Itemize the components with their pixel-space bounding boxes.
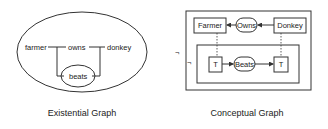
conceptual-graph: ¬ Farmer Owns Donkey ¬ T Beats T [175, 11, 311, 90]
eg-beats-label: beats [69, 72, 88, 81]
existential-graph-caption: Existential Graph [48, 108, 117, 118]
diagram-canvas: farmer owns donkey beats Existential Gra… [0, 0, 328, 129]
eg-owns-label: owns [68, 43, 86, 52]
eg-farmer-label: farmer [25, 43, 47, 52]
existential-graph: farmer owns donkey beats [17, 12, 147, 92]
inner-negation-mark: ¬ [187, 58, 192, 67]
cg-owns-label: Owns [237, 21, 256, 30]
eg-donkey-label: donkey [107, 43, 131, 52]
conceptual-graph-caption: Conceptual Graph [210, 108, 283, 118]
cg-t-right-label: T [279, 60, 284, 69]
outer-negation-mark: ¬ [175, 48, 180, 57]
cg-donkey-label: Donkey [277, 21, 303, 30]
cg-farmer-label: Farmer [198, 21, 223, 30]
cg-beats-label: Beats [235, 60, 254, 69]
cg-t-left-label: T [213, 60, 218, 69]
